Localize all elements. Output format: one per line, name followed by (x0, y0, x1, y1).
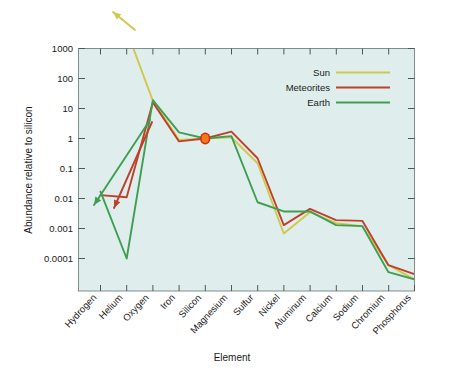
y-tick-label: 100 (57, 73, 73, 84)
legend-label-sun: Sun (313, 67, 330, 78)
legend-label-meteorites: Meteorites (286, 82, 331, 93)
y-tick-label: 0.1 (60, 163, 73, 174)
y-tick-label: 1 (68, 133, 73, 144)
chart-svg: 1000 100 10 1 0.1 0.01 0.001 0.0001 Abun… (0, 0, 469, 373)
y-tick-label: 0.01 (55, 193, 74, 204)
marker-layer (200, 133, 210, 145)
y-tick-label: 0.001 (49, 223, 73, 234)
silicon-reference-marker (202, 134, 209, 143)
x-axis-title: Element (214, 352, 251, 363)
plot-area (79, 49, 415, 292)
y-tick-label: 0.0001 (44, 253, 73, 264)
y-axis-title: Abundance relative to silicon (23, 106, 34, 233)
legend-label-earth: Earth (307, 97, 330, 108)
y-tick-label: 10 (62, 103, 73, 114)
abundance-chart-figure: 1000 100 10 1 0.1 0.01 0.001 0.0001 Abun… (0, 0, 469, 373)
y-tick-label: 1000 (52, 43, 73, 54)
